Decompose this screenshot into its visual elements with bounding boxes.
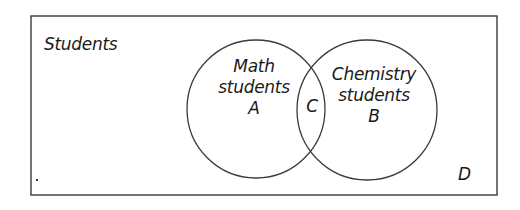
universe-label: Students: [44, 34, 117, 55]
stray-dot: [36, 179, 38, 181]
region-b-label: B: [322, 106, 426, 127]
region-a-label: A: [206, 98, 302, 119]
set-a-line-2: students: [206, 77, 302, 98]
set-b-line-2: students: [322, 85, 426, 106]
set-a-label: Math students A: [206, 56, 302, 119]
set-b-label: Chemistry students B: [322, 64, 426, 127]
set-a-line-1: Math: [206, 56, 302, 77]
region-c-label: C: [300, 96, 324, 117]
region-d-label: D: [458, 164, 471, 185]
set-b-line-1: Chemistry: [322, 64, 426, 85]
